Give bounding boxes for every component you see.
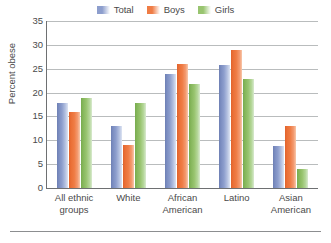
- x-label-4: Latino: [210, 192, 264, 204]
- footer-divider: [10, 231, 321, 232]
- y-tick-label-20: 20: [5, 88, 43, 98]
- legend-swatch-total: [97, 6, 110, 14]
- bars-layer: [47, 21, 318, 188]
- y-tick-label-35: 35: [5, 16, 43, 26]
- bar-group-2: [111, 21, 146, 188]
- bar-boys-4: [231, 50, 242, 188]
- bar-boys-3: [177, 64, 188, 188]
- bar-girls-4: [243, 79, 254, 188]
- legend-swatch-boys: [147, 6, 160, 14]
- bar-group-5: [273, 21, 308, 188]
- legend-entry-total: Total: [97, 5, 134, 15]
- y-tick-label-30: 30: [5, 40, 43, 50]
- x-label-5: Asian American: [264, 192, 318, 215]
- y-axis-tick-labels: 05101520253035: [0, 21, 43, 189]
- bar-girls-3: [189, 84, 200, 188]
- x-label-3: African American: [155, 192, 209, 215]
- bar-total-3: [165, 74, 176, 188]
- legend-label-total: Total: [114, 5, 134, 15]
- legend-entry-boys: Boys: [147, 5, 185, 15]
- legend-label-girls: Girls: [215, 5, 235, 15]
- y-tick-label-0: 0: [5, 183, 43, 193]
- bar-total-2: [111, 126, 122, 188]
- bar-group-3: [165, 21, 200, 188]
- y-tick-label-10: 10: [5, 136, 43, 146]
- bar-girls-1: [81, 98, 92, 188]
- bar-girls-5: [297, 169, 308, 188]
- bar-boys-1: [69, 112, 80, 188]
- bar-total-4: [219, 65, 230, 188]
- bar-total-5: [273, 146, 284, 188]
- y-tick-label-5: 5: [5, 159, 43, 169]
- legend-swatch-girls: [198, 6, 211, 14]
- bar-chart-figure: Total Boys Girls Percent obese 051015202…: [0, 0, 331, 243]
- bar-boys-5: [285, 126, 296, 188]
- y-tick-label-15: 15: [5, 112, 43, 122]
- bar-girls-2: [135, 103, 146, 188]
- y-tick-label-25: 25: [5, 64, 43, 74]
- legend-entry-girls: Girls: [198, 5, 235, 15]
- x-axis-category-labels: All ethnic groupsWhiteAfrican AmericanLa…: [47, 192, 318, 228]
- bar-group-1: [57, 21, 92, 188]
- bar-total-1: [57, 103, 68, 188]
- x-label-2: White: [101, 192, 155, 204]
- x-label-1: All ethnic groups: [47, 192, 101, 215]
- chart-legend: Total Boys Girls: [0, 2, 331, 18]
- legend-label-boys: Boys: [164, 5, 185, 15]
- x-axis-baseline: [47, 188, 318, 189]
- bar-group-4: [219, 21, 254, 188]
- bar-boys-2: [123, 145, 134, 188]
